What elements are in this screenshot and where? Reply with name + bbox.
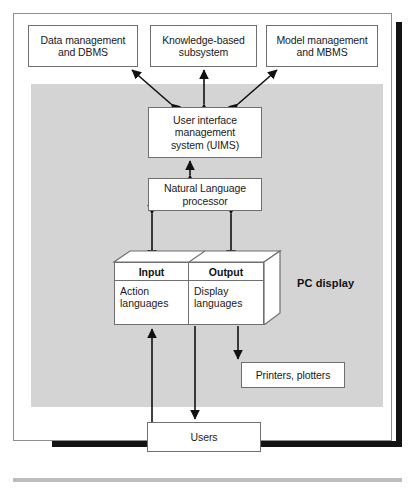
pc-display-input-column[interactable]: Input Action languages	[115, 263, 189, 324]
diagram-canvas: Data management and DBMS Knowledge-based…	[0, 0, 414, 497]
node-model-management[interactable]: Model management and MBMS	[266, 25, 378, 67]
pc-display-label: PC display	[297, 277, 354, 289]
frame-shadow-right	[396, 22, 402, 446]
node-pc-display-block[interactable]: Input Action languages Output Display la…	[104, 250, 284, 325]
bottom-rule	[13, 478, 402, 482]
node-natural-language-processor[interactable]: Natural Language processor	[148, 178, 262, 211]
output-column-body: Display languages	[189, 281, 263, 324]
input-column-header: Input	[115, 263, 188, 281]
input-column-body: Action languages	[115, 281, 188, 324]
node-uims[interactable]: User interface management system (UIMS)	[148, 107, 262, 158]
output-column-header: Output	[189, 263, 263, 281]
pc-display-output-column[interactable]: Output Display languages	[189, 263, 263, 324]
node-printers-plotters[interactable]: Printers, plotters	[241, 362, 345, 388]
node-knowledge-based-subsystem[interactable]: Knowledge-based subsystem	[150, 25, 257, 67]
node-users[interactable]: Users	[147, 422, 261, 452]
node-data-management[interactable]: Data management and DBMS	[28, 25, 138, 67]
pc-display-front-face: Input Action languages Output Display la…	[114, 262, 264, 325]
